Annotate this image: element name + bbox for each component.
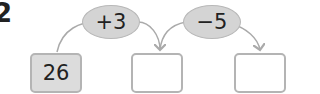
start-value-box: 26: [30, 53, 82, 93]
operation-minus-5: −5: [183, 5, 241, 39]
operation-label: +3: [96, 10, 127, 34]
answer-box-1[interactable]: [131, 53, 183, 93]
operation-plus-3: +3: [82, 5, 140, 39]
operation-label: −5: [197, 10, 228, 34]
answer-box-2[interactable]: [234, 53, 286, 93]
start-value: 26: [43, 61, 70, 85]
